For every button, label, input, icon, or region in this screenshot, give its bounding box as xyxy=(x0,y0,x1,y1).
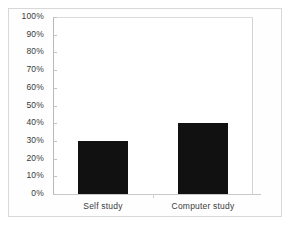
y-axis-tick-mark xyxy=(53,159,57,160)
y-axis-tick-mark xyxy=(53,176,57,177)
y-axis-tick-label: 0% xyxy=(31,188,44,198)
bar-chart-figure: 0%10%20%30%40%50%60%70%80%90%100% Self s… xyxy=(0,0,290,225)
y-axis-tick-label: 100% xyxy=(21,11,44,21)
y-axis-tick-mark xyxy=(53,106,57,107)
y-axis-tick-mark xyxy=(53,70,57,71)
y-axis-tick-mark xyxy=(53,52,57,53)
x-axis-category-label: Computer study xyxy=(153,201,253,212)
x-axis-tick-mark xyxy=(153,194,154,198)
x-axis-category-label: Self study xyxy=(53,201,153,212)
y-axis-tick-label: 60% xyxy=(26,82,44,92)
y-axis-tick-label: 40% xyxy=(26,117,44,127)
y-axis-tick-mark xyxy=(53,35,57,36)
x-axis-line xyxy=(53,194,261,195)
y-axis-tick-label: 90% xyxy=(26,29,44,39)
bar xyxy=(78,141,128,194)
y-axis-tick-label: 50% xyxy=(26,100,44,110)
y-axis-tick-label: 20% xyxy=(26,153,44,163)
y-axis-tick-mark xyxy=(53,17,57,18)
y-axis-tick-mark xyxy=(53,123,57,124)
y-axis-tick-mark xyxy=(53,88,57,89)
y-axis-tick-mark xyxy=(53,141,57,142)
y-axis-tick-label: 70% xyxy=(26,64,44,74)
y-axis-tick-mark xyxy=(53,194,57,195)
y-axis-tick-label: 80% xyxy=(26,46,44,56)
y-axis-tick-label: 30% xyxy=(26,135,44,145)
y-axis-tick-label: 10% xyxy=(26,170,44,180)
bar xyxy=(178,123,228,194)
